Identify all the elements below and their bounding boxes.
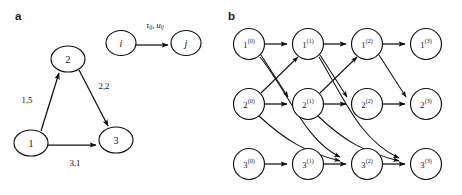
node-sup: (0)	[248, 38, 255, 45]
node-sup: (3)	[425, 158, 432, 165]
node-sup: (3)	[425, 38, 432, 45]
panel-a: a 1,5 2,2 3,1 1 2 3	[14, 10, 201, 168]
node-sup: (1)	[307, 98, 314, 105]
panel-a-node-1: 1	[14, 130, 48, 156]
edge-1-to-2	[41, 73, 59, 131]
edge-2-to-3	[79, 70, 108, 126]
panel-b-node-3t1: 3(1)	[293, 149, 324, 180]
node-sup: (0)	[248, 98, 255, 105]
edge-2t1-to-1t2	[320, 57, 357, 93]
panel-b-letter: b	[228, 10, 235, 22]
edge-label-2-3: 2,2	[99, 81, 110, 91]
panel-b-node-3t0: 3(0)	[234, 149, 265, 180]
panel-b-node-3t3: 3(3)	[411, 149, 442, 180]
edge-1t2-to-2t3	[379, 55, 406, 97]
edge-1t0-to-2t1	[261, 55, 288, 97]
figure-svg: a 1,5 2,2 3,1 1 2 3	[0, 0, 462, 195]
node-sup: (3)	[425, 98, 432, 105]
panel-b-node-2t0: 2(0)	[234, 89, 265, 120]
panel-b-node-3t2: 3(2)	[352, 149, 383, 180]
panel-b-node-1t1: 1(1)	[293, 29, 324, 60]
legend-node-i-label: i	[120, 38, 123, 49]
node-sup: (2)	[366, 158, 373, 165]
node-sup: (2)	[366, 38, 373, 45]
panel-b-transit-edges	[259, 55, 406, 161]
node-sup: (1)	[307, 158, 314, 165]
panel-b-node-2t3: 2(3)	[411, 89, 442, 120]
panel-a-legend: i j τij, uij	[106, 21, 201, 56]
node-label: 3	[114, 135, 119, 146]
legend-arc-label: τij, uij	[146, 21, 164, 31]
panel-b: b	[228, 10, 442, 180]
edge-label-1-3: 3,1	[70, 158, 81, 168]
edge-1t1-to-2t2	[320, 55, 347, 97]
panel-b-node-1t0: 1(0)	[234, 29, 265, 60]
node-sup: (2)	[366, 98, 373, 105]
node-label: 1	[29, 138, 34, 149]
legend-u-sub: ij	[161, 24, 165, 30]
panel-a-letter: a	[15, 10, 22, 22]
panel-b-node-2t1: 2(1)	[293, 89, 324, 120]
node-sup: (0)	[248, 158, 255, 165]
edge-2t0-to-1t1	[261, 57, 298, 93]
figure-root: a 1,5 2,2 3,1 1 2 3	[0, 0, 462, 195]
panel-b-node-2t2: 2(2)	[352, 89, 383, 120]
panel-a-node-2: 2	[51, 46, 85, 72]
panel-b-node-1t2: 1(2)	[352, 29, 383, 60]
node-label: 2	[66, 54, 71, 65]
edge-label-1-2: 1,5	[22, 95, 34, 105]
panel-b-node-1t3: 1(3)	[411, 29, 442, 60]
node-sup: (1)	[307, 38, 314, 45]
panel-a-node-3: 3	[99, 127, 133, 153]
